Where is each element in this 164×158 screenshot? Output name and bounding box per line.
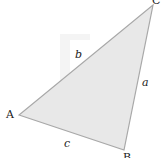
side-label-b: b [75, 48, 82, 61]
vertex-label-c: C [152, 0, 160, 7]
triangle-diagram: A B C a b c [0, 0, 164, 158]
side-label-c: c [64, 137, 70, 150]
ghost-top [60, 34, 90, 40]
vertex-label-b: B [123, 151, 131, 158]
vertex-label-a: A [5, 108, 15, 121]
triangle-shape [19, 5, 153, 150]
side-label-a: a [142, 76, 149, 89]
